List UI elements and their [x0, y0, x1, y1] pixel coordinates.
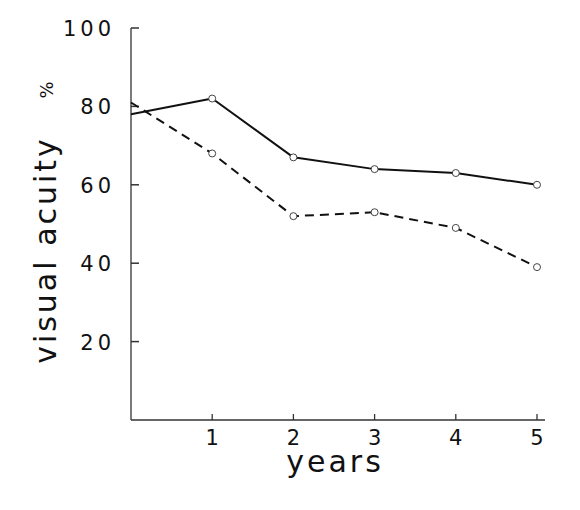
y-tick-label: 40 — [80, 252, 115, 276]
axes: 2040608010012345 — [63, 17, 548, 450]
y-axis-unit: % — [36, 81, 57, 98]
data-point-marker — [534, 181, 541, 188]
solid-series-line — [131, 99, 537, 185]
y-tick-label: 80 — [80, 95, 115, 119]
line-chart: 2040608010012345 years visual acuity % — [0, 0, 580, 510]
x-tick-label: 5 — [530, 426, 547, 450]
y-tick-label: 20 — [80, 331, 115, 355]
x-axis-title: years — [286, 444, 384, 479]
data-point-marker — [209, 95, 216, 102]
data-point-marker — [452, 170, 459, 177]
data-point-marker — [209, 150, 216, 157]
dashed-series-line — [131, 102, 537, 267]
data-point-marker — [534, 264, 541, 271]
data-point-marker — [290, 213, 297, 220]
data-point-marker — [452, 224, 459, 231]
y-tick-label: 60 — [80, 174, 115, 198]
x-tick-label: 4 — [449, 426, 466, 450]
y-axis-title: visual acuity — [28, 136, 63, 364]
data-point-marker — [371, 209, 378, 216]
data-point-marker — [371, 166, 378, 173]
x-tick-label: 1 — [206, 426, 223, 450]
data-series — [131, 95, 541, 271]
data-point-marker — [290, 154, 297, 161]
y-tick-label: 100 — [63, 17, 115, 41]
